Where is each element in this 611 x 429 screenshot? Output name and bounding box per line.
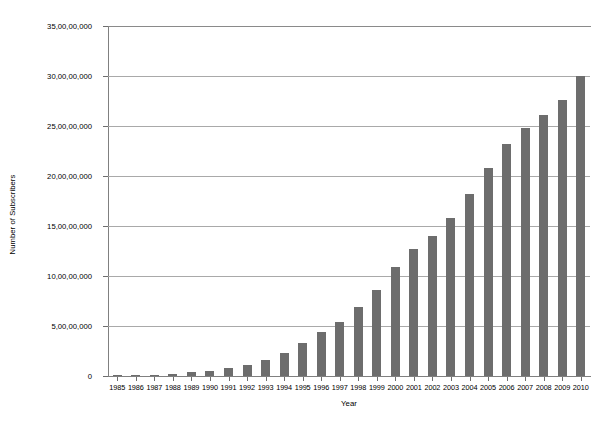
bar [243, 365, 252, 376]
x-axis-tick [266, 377, 267, 381]
x-axis-tick [562, 377, 563, 381]
x-axis-tick [117, 377, 118, 381]
bar [465, 194, 474, 376]
bar [576, 76, 585, 376]
y-axis-tick-label: 20,00,00,000 [47, 172, 92, 181]
bar [280, 353, 289, 376]
x-axis-tick [414, 377, 415, 381]
bar [150, 375, 159, 376]
x-axis-tick [377, 377, 378, 381]
bar [187, 372, 196, 376]
y-axis-tick-label: 10,00,00,000 [47, 272, 92, 281]
x-axis-tick [451, 377, 452, 381]
x-axis-tick [581, 377, 582, 381]
bar [521, 128, 530, 376]
bar [131, 375, 140, 376]
x-axis-tick [525, 377, 526, 381]
x-axis-title: Year [108, 399, 590, 408]
x-axis-tick [191, 377, 192, 381]
bar [113, 375, 122, 376]
x-axis-tick [173, 377, 174, 381]
x-axis-tick-label: 2010 [568, 383, 594, 392]
bar [261, 360, 270, 376]
bar [391, 267, 400, 376]
y-axis-tick-labels: 05,00,00,00010,00,00,00015,00,00,00020,0… [0, 0, 100, 429]
bar [168, 374, 177, 376]
y-axis-tick-label: 15,00,00,000 [47, 222, 92, 231]
bar-chart-figure: Number of Subscribers 05,00,00,00010,00,… [0, 0, 611, 429]
bar [372, 290, 381, 376]
x-axis-tick [395, 377, 396, 381]
bar [298, 343, 307, 376]
x-axis-tick [470, 377, 471, 381]
x-axis-tick [340, 377, 341, 381]
bar [354, 307, 363, 376]
x-axis-tick [210, 377, 211, 381]
y-axis-tick-label: 35,00,00,000 [47, 22, 92, 31]
bar [205, 371, 214, 376]
bar [317, 332, 326, 376]
x-axis-tick [136, 377, 137, 381]
x-axis-tick [229, 377, 230, 381]
y-axis-tick-label: 30,00,00,000 [47, 72, 92, 81]
y-axis-tick-label: 25,00,00,000 [47, 122, 92, 131]
bar [558, 100, 567, 376]
x-axis-tick [303, 377, 304, 381]
x-axis-tick [358, 377, 359, 381]
x-axis-tick [247, 377, 248, 381]
bar [335, 322, 344, 376]
x-axis-tick [284, 377, 285, 381]
x-axis-tick [507, 377, 508, 381]
x-axis-tick [154, 377, 155, 381]
bar [409, 249, 418, 376]
x-axis-tick [321, 377, 322, 381]
bar [428, 236, 437, 376]
bar [539, 115, 548, 376]
y-axis-tick-label: 5,00,00,000 [51, 322, 92, 331]
bars-group [108, 26, 590, 376]
x-axis-tick [432, 377, 433, 381]
bar [484, 168, 493, 376]
bar [502, 144, 511, 376]
y-axis-tick-label: 0 [88, 372, 92, 381]
x-axis-tick [488, 377, 489, 381]
bar [224, 368, 233, 376]
bar [446, 218, 455, 376]
x-axis-tick [544, 377, 545, 381]
